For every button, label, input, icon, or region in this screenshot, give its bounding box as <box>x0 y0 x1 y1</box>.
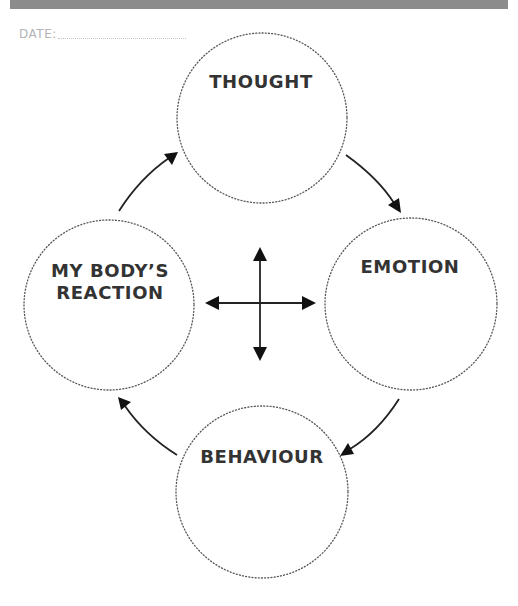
arrow-behaviour-to-body <box>118 397 177 455</box>
cycle-diagram: THOUGHT EMOTION BEHAVIOUR MY BODY’S REAC… <box>0 0 518 606</box>
arrow-head-icon <box>340 443 354 456</box>
arrow-line <box>125 406 177 455</box>
arrow-line <box>119 158 169 211</box>
arrow-down-icon <box>253 347 267 361</box>
thought-circle <box>177 33 347 203</box>
behaviour-circle <box>176 406 348 578</box>
arrow-right-icon <box>302 296 316 310</box>
body-reaction-label-line1: MY BODY’S <box>51 260 169 281</box>
arrow-up-icon <box>253 247 267 261</box>
node-body-reaction[interactable]: MY BODY’S REACTION <box>24 220 194 390</box>
emotion-label: EMOTION <box>360 256 459 277</box>
node-emotion[interactable]: EMOTION <box>325 218 497 390</box>
arrow-thought-to-emotion <box>346 155 401 213</box>
behaviour-label: BEHAVIOUR <box>200 446 324 467</box>
arrow-body-to-thought <box>119 152 178 211</box>
body-reaction-label-line2: REACTION <box>56 282 163 303</box>
arrow-head-icon <box>118 397 131 410</box>
emotion-circle <box>325 218 497 390</box>
node-thought[interactable]: THOUGHT <box>177 33 347 203</box>
thought-label: THOUGHT <box>209 71 313 92</box>
arrow-emotion-to-behaviour <box>340 399 399 456</box>
arrow-head-icon <box>388 198 401 213</box>
arrow-line <box>346 155 394 203</box>
node-behaviour[interactable]: BEHAVIOUR <box>176 406 348 578</box>
body-reaction-circle <box>24 220 194 390</box>
arrow-left-icon <box>205 296 219 310</box>
four-way-arrow-icon <box>205 247 316 361</box>
arrow-line <box>350 399 399 449</box>
arrow-head-icon <box>164 152 178 165</box>
